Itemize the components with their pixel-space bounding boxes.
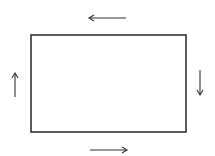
- rectangle-loop: [31, 35, 186, 132]
- circulation-diagram: [0, 0, 215, 156]
